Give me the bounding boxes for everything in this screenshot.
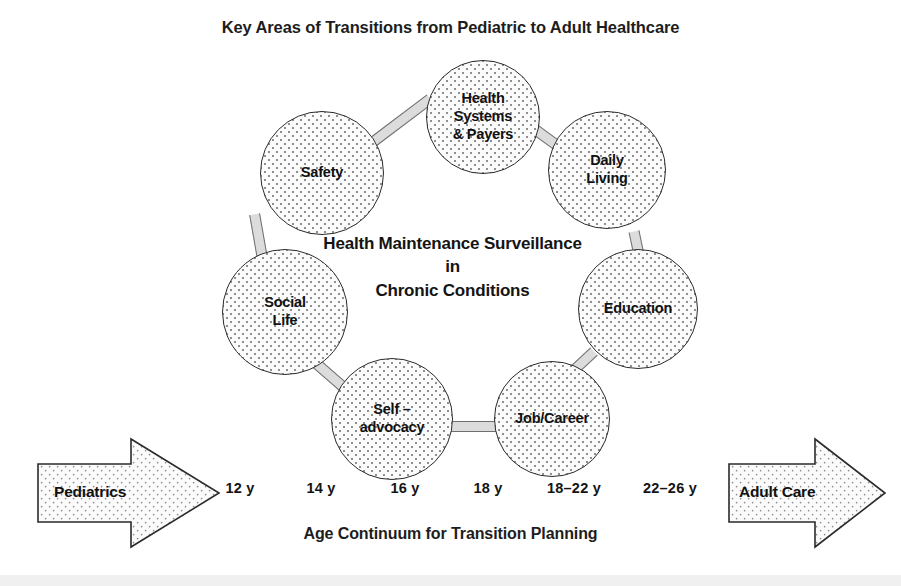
node-label-daily-living: Daily Living	[586, 152, 628, 187]
node-label-safety: Safety	[301, 164, 343, 182]
node-health-systems-payers[interactable]: Health Systems & Payers	[426, 60, 540, 174]
node-label-health-systems-payers: Health Systems & Payers	[453, 90, 513, 143]
node-job-career[interactable]: Job/Career	[494, 361, 610, 477]
center-text-line-1: Health Maintenance Surveillance	[270, 232, 635, 255]
age-tick-14y: 14 y	[297, 480, 345, 496]
node-label-job-career: Job/Career	[515, 410, 589, 428]
node-social-life[interactable]: Social Life	[222, 249, 348, 375]
node-daily-living[interactable]: Daily Living	[548, 111, 666, 229]
age-continuum-caption: Age Continuum for Transition Planning	[0, 525, 901, 543]
node-label-education: Education	[604, 300, 672, 318]
age-tick-12y: 12 y	[216, 480, 264, 496]
adult-care-arrow-label: Adult Care	[739, 483, 815, 501]
age-tick-16y: 16 y	[381, 480, 429, 496]
pediatrics-arrow-label: Pediatrics	[54, 483, 126, 501]
age-tick-18-22y: 18–22 y	[537, 480, 611, 496]
node-label-self-advocacy: Self – advocacy	[360, 401, 425, 436]
age-tick-18y: 18 y	[464, 480, 512, 496]
node-safety[interactable]: Safety	[260, 111, 384, 235]
node-education[interactable]: Education	[578, 249, 698, 369]
bottom-edge-band	[0, 575, 901, 586]
age-tick-22-26y: 22–26 y	[633, 480, 707, 496]
node-self-advocacy[interactable]: Self – advocacy	[331, 358, 453, 480]
node-label-social-life: Social Life	[264, 294, 306, 329]
diagram-canvas: Key Areas of Transitions from Pediatric …	[0, 0, 901, 586]
